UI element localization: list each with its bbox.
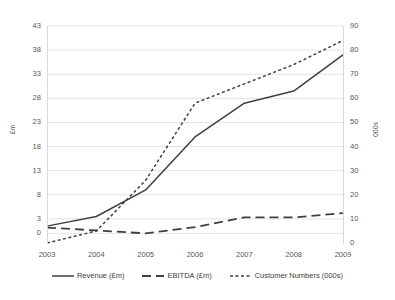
right-axis-tick-label: 40	[350, 143, 359, 151]
legend-item[interactable]: EBITDA (£m)	[142, 272, 211, 280]
legend-label: Customer Numbers (000s)	[255, 272, 343, 280]
right-axis-title: 000s	[372, 122, 379, 137]
left-axis-tick-label: 38	[32, 46, 41, 54]
x-axis-tick-label: 2003	[39, 251, 56, 259]
left-axis-tick-label: 43	[32, 22, 41, 30]
right-axis-tick-label: 50	[350, 118, 359, 126]
left-axis-tick-label: 33	[32, 70, 41, 78]
x-axis-tick-label: 2005	[137, 251, 154, 259]
left-axis-tick-label: 18	[32, 143, 41, 151]
legend-line-swatch	[142, 273, 164, 279]
series-line	[47, 55, 343, 226]
left-axis-tick-label: 28	[32, 94, 41, 102]
right-axis-tick-label: 10	[350, 215, 359, 223]
x-axis-tick-label: 2008	[285, 251, 302, 259]
legend-label: Revenue (£m)	[77, 272, 125, 280]
plot-area	[47, 26, 343, 243]
left-axis-title: £m	[9, 125, 16, 135]
x-axis-tick-label: 2007	[236, 251, 253, 259]
legend-item[interactable]: Customer Numbers (000s)	[230, 272, 343, 280]
x-axis-tick-label: 2009	[335, 251, 352, 259]
left-axis-tick-label: 13	[32, 167, 41, 175]
left-axis-tick-label: 0	[37, 229, 41, 237]
right-axis-tick-label: 0	[350, 239, 354, 247]
legend-label: EBITDA (£m)	[167, 272, 211, 280]
left-axis-ticks: 43383328231813830	[0, 0, 41, 300]
legend-line-swatch	[230, 273, 252, 279]
right-axis-tick-label: 60	[350, 94, 359, 102]
series-line	[47, 213, 343, 233]
right-axis-tick-label: 90	[350, 22, 359, 30]
legend-item[interactable]: Revenue (£m)	[52, 272, 125, 280]
left-axis-tick-label: 8	[37, 191, 41, 199]
left-axis-tick-label: 3	[37, 215, 41, 223]
line-chart: 43383328231813830 9080706050403020100 20…	[0, 0, 395, 300]
right-axis-tick-label: 80	[350, 46, 359, 54]
left-axis-tick-label: 23	[32, 118, 41, 126]
right-axis-ticks: 9080706050403020100	[350, 0, 390, 300]
right-axis-line	[343, 26, 344, 244]
left-axis-line	[47, 26, 48, 244]
series-line	[47, 40, 343, 243]
chart-legend: Revenue (£m)EBITDA (£m)Customer Numbers …	[0, 272, 395, 280]
right-axis-tick-label: 30	[350, 167, 359, 175]
right-axis-tick-label: 20	[350, 191, 359, 199]
x-axis-tick-label: 2004	[88, 251, 105, 259]
right-axis-tick-label: 70	[350, 70, 359, 78]
x-axis-tick-label: 2006	[187, 251, 204, 259]
series-group	[47, 26, 343, 244]
legend-line-swatch	[52, 273, 74, 279]
